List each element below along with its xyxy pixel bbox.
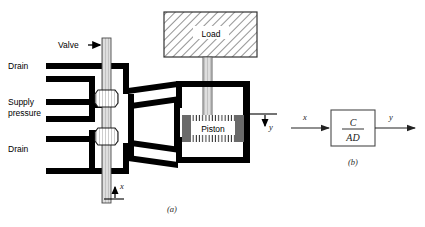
hydraulic-servo-figure: Load Piston: [0, 0, 425, 227]
spool-land-upper: [95, 90, 118, 107]
piston-rod: [203, 57, 212, 119]
drain-bottom-label: Drain: [8, 144, 29, 154]
supply-pressure-label-line2: pressure: [8, 108, 41, 118]
drain-top-upper-wall: [46, 63, 101, 69]
piston-rod-shaft: [203, 57, 212, 119]
piston-label: Piston: [201, 124, 225, 134]
x-displacement-label: x: [119, 181, 124, 191]
block-denominator: AD: [345, 132, 360, 143]
piston-right-seal: [235, 115, 244, 142]
drain-bottom-lower-wall: [46, 168, 101, 174]
spool-land-lower: [95, 128, 118, 145]
figure-canvas: Load Piston: [0, 0, 425, 227]
load-block: Load: [164, 12, 257, 57]
supply-upper-wall: [46, 99, 95, 105]
supply-pressure-label-line1: Supply: [8, 97, 35, 107]
valve-body-right-lower: [123, 143, 129, 174]
valve-stem: [102, 38, 111, 203]
cylinder-right-wall: [243, 81, 250, 163]
supply-right-wall: [89, 99, 95, 122]
taper-inner-right-edge: [174, 100, 180, 148]
block-input-label: x: [302, 112, 307, 122]
cylinder-bottom-wall: [176, 157, 250, 163]
panel-a-caption: (a): [167, 204, 177, 214]
valve-body-right-upper: [123, 63, 129, 94]
load-label: Load: [202, 29, 221, 39]
panel-b-caption: (b): [348, 157, 358, 167]
cylinder-top-wall: [176, 81, 250, 87]
valve-label: Valve: [58, 40, 79, 50]
drain-bottom-return-wall: [89, 136, 95, 168]
valve-stem-shaft: [102, 38, 111, 203]
supply-lower-wall: [46, 116, 95, 122]
block-numerator: C: [350, 117, 357, 128]
y-displacement-label: y: [268, 122, 273, 132]
block-output-label: y: [388, 112, 393, 122]
drain-top-label: Drain: [8, 61, 29, 71]
drain-bottom-upper-wall: [46, 136, 95, 142]
piston-left-seal: [182, 115, 191, 142]
piston-head: Piston: [182, 115, 244, 142]
drain-top-lower-wall: [46, 76, 95, 82]
